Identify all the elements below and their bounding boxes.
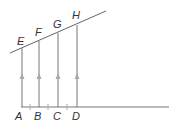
- label-H: H: [72, 9, 80, 21]
- label-A: A: [14, 110, 22, 122]
- label-D: D: [72, 110, 80, 122]
- parallel-arrow-icons: [20, 73, 80, 79]
- label-B: B: [34, 110, 41, 122]
- label-G: G: [53, 18, 62, 30]
- label-E: E: [17, 35, 25, 47]
- label-F: F: [35, 26, 43, 38]
- parallel-lines-diagram: A B C D E F G H: [0, 0, 178, 126]
- label-C: C: [53, 110, 61, 122]
